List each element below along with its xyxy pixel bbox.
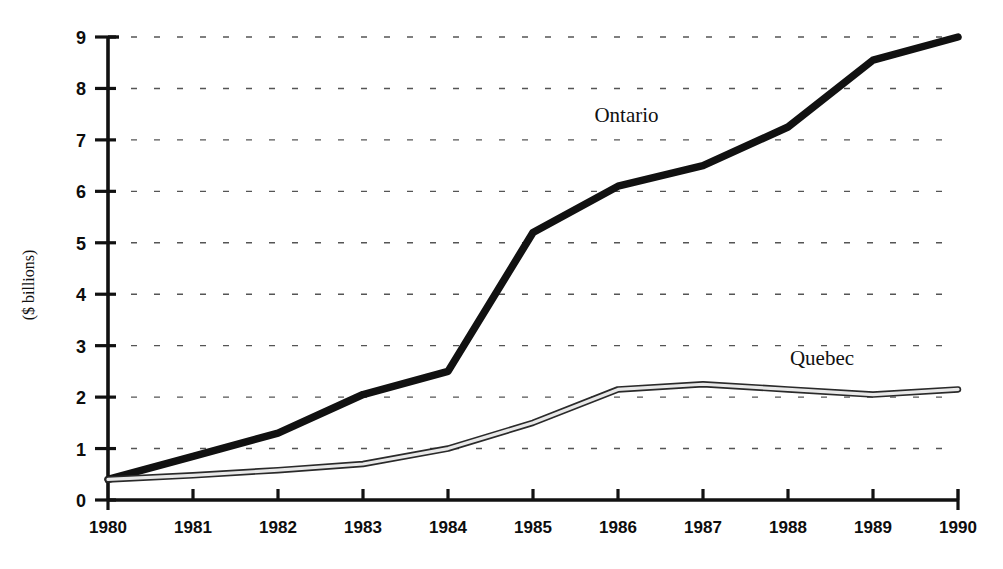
- x-tick-label: 1989: [854, 518, 892, 537]
- y-tick-label: 0: [76, 491, 86, 511]
- line-chart: 0123456789 19801981198219831984198519861…: [0, 0, 1003, 569]
- y-tick-label: 2: [76, 388, 86, 408]
- gridlines: [108, 37, 958, 449]
- x-axis-tick-labels: 1980198119821983198419851986198719881989…: [89, 518, 977, 537]
- y-tick-label: 3: [76, 337, 86, 357]
- x-tick-label: 1985: [514, 518, 552, 537]
- y-axis-title: ($ billions): [20, 250, 38, 321]
- data-series-layer: [108, 37, 958, 479]
- y-tick-label: 1: [76, 440, 86, 460]
- x-tick-label: 1988: [769, 518, 807, 537]
- y-tick-label: 8: [76, 79, 86, 99]
- series-label-quebec: Quebec: [790, 346, 854, 370]
- series-line-quebec-core: [108, 384, 958, 479]
- x-tick-label: 1987: [684, 518, 722, 537]
- y-tick-label: 5: [76, 234, 86, 254]
- x-tick-label: 1990: [939, 518, 977, 537]
- series-label-ontario: Ontario: [594, 103, 658, 127]
- y-axis-ticks: [95, 37, 116, 500]
- x-tick-label: 1981: [174, 518, 212, 537]
- y-axis-title-text: ($ billions): [20, 250, 38, 321]
- x-tick-label: 1984: [429, 518, 467, 537]
- y-tick-label: 4: [76, 285, 86, 305]
- y-tick-label: 6: [76, 182, 86, 202]
- chart-container: 0123456789 19801981198219831984198519861…: [0, 0, 1003, 569]
- series-line-quebec-outline: [108, 384, 958, 479]
- series-line-ontario: [108, 37, 958, 479]
- y-axis-tick-labels: 0123456789: [76, 28, 86, 511]
- x-tick-label: 1982: [259, 518, 297, 537]
- series-inline-labels: OntarioQuebec: [594, 103, 854, 370]
- x-tick-label: 1980: [89, 518, 127, 537]
- y-tick-label: 9: [76, 28, 86, 48]
- x-tick-label: 1986: [599, 518, 637, 537]
- x-tick-label: 1983: [344, 518, 382, 537]
- y-tick-label: 7: [76, 131, 86, 151]
- axis-lines: [108, 37, 958, 500]
